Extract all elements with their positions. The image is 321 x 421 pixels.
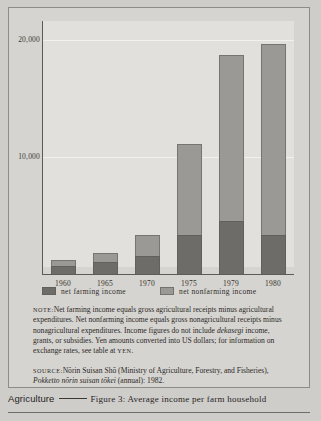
bar-segment-farming-1960	[51, 266, 76, 274]
footer-bottom-rule	[8, 412, 310, 413]
bar-chart: 20,00010,000 196019651970197519791980	[42, 21, 294, 275]
bar-1979	[219, 55, 244, 274]
note-italic-1: dekasegi	[217, 326, 244, 335]
bar-segment-farming-1965	[93, 262, 118, 274]
gridline-10000	[43, 157, 294, 158]
bar-segment-nonfarming-1979	[219, 55, 244, 220]
bar-segment-nonfarming-1980	[261, 44, 286, 235]
footer-caption-text: Figure 3: Average income per farm househ…	[91, 394, 267, 404]
light-gray-swatch-icon	[160, 287, 174, 295]
dark-gray-swatch-icon	[42, 287, 56, 295]
bar-segment-farming-1970	[135, 256, 160, 275]
chart-legend: net farming income net nonfarming income	[42, 284, 294, 298]
note-smallcaps-yen: yen	[117, 347, 131, 354]
plot-background	[42, 21, 294, 267]
y-tick-label: 10,000	[10, 152, 40, 161]
gridline-20000	[43, 40, 294, 41]
bar-segment-nonfarming-1975	[177, 144, 202, 235]
legend-item-net-farming-income: net farming income	[42, 287, 126, 296]
legend-label: net nonfarming income	[179, 287, 256, 296]
y-axis-line	[42, 21, 43, 275]
source-label: Source:	[33, 367, 63, 374]
bar-segment-nonfarming-1965	[93, 253, 118, 261]
y-tick-label: 20,000	[10, 35, 40, 44]
bar-1970	[135, 235, 160, 274]
figure-frame: US $ 20,00010,000 1960196519701975197919…	[8, 7, 310, 388]
x-axis-line	[42, 274, 294, 275]
source-text-2: (annual): 1982.	[116, 376, 164, 385]
note-label: Note:	[33, 306, 54, 313]
legend-label: net farming income	[61, 287, 126, 296]
bar-1980	[261, 44, 286, 274]
bar-segment-farming-1979	[219, 221, 244, 274]
source-text-1: Nōrin Suisan Shō (Ministry of Agricultur…	[63, 366, 269, 375]
bar-1960	[51, 260, 76, 274]
bar-segment-nonfarming-1970	[135, 235, 160, 256]
bar-segment-farming-1975	[177, 235, 202, 274]
bar-segment-farming-1980	[261, 235, 286, 274]
figure-source: Source:Nōrin Suisan Shō (Ministry of Agr…	[33, 366, 291, 387]
bar-1975	[177, 144, 202, 274]
footer-section-name: Agriculture	[8, 393, 55, 404]
note-text-3: .	[132, 346, 134, 355]
bar-1965	[93, 253, 118, 274]
figure-note: Note:Net farming income equals gross agr…	[33, 305, 291, 356]
footer-dash-rule	[59, 398, 87, 399]
legend-item-net-nonfarming-income: net nonfarming income	[160, 287, 256, 296]
source-italic-1: Pokketto nōrin suisan tōkei	[33, 376, 116, 385]
footer-caption-row: Agriculture Figure 3: Average income per…	[8, 393, 267, 404]
figure-footer: Agriculture Figure 3: Average income per…	[8, 392, 310, 414]
